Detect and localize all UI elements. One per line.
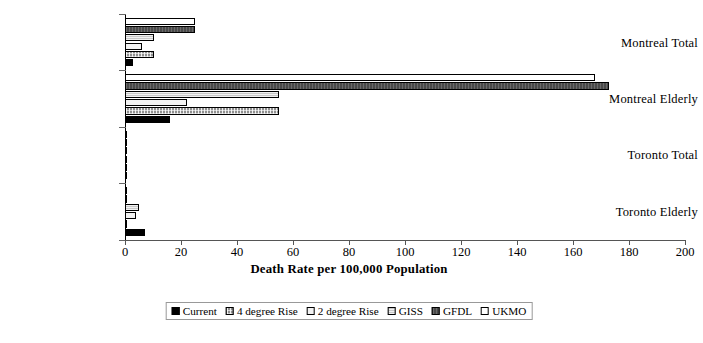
bar-current-montreal-elderly: [125, 116, 170, 123]
bar-group-montreal-total: [125, 14, 685, 70]
bar-row: [125, 220, 685, 228]
legend-label: GISS: [399, 305, 423, 317]
bar-group-montreal-elderly: [125, 70, 685, 127]
bar-group-toronto-elderly: [125, 183, 685, 240]
bar-row: [125, 17, 685, 25]
legend-item-giss[interactable]: GISS: [388, 305, 423, 317]
x-tick-label: 180: [609, 245, 649, 260]
legend-label: GFDL: [443, 305, 472, 317]
legend-item-gfdl[interactable]: GFDL: [432, 305, 472, 317]
bar-4-degree-rise-toronto-elderly: [125, 220, 127, 227]
bar-ukmo-montreal-total: [125, 18, 195, 25]
x-tick-label: 80: [329, 245, 369, 260]
chart-legend: Current4 degree Rise2 degree RiseGISSGFD…: [166, 302, 533, 320]
bar-row: [125, 99, 685, 107]
bar-row: [125, 50, 685, 58]
bar-row: [125, 107, 685, 115]
bar-2-degree-rise-toronto-total: [125, 156, 127, 163]
x-tick-label: 140: [497, 245, 537, 260]
bar-row: [125, 155, 685, 163]
bar-row: [125, 195, 685, 203]
bar-ukmo-montreal-elderly: [125, 74, 595, 81]
bar-row: [125, 115, 685, 123]
bar-row: [125, 187, 685, 195]
bar-row: [125, 90, 685, 98]
legend-item-2-degree-rise[interactable]: 2 degree Rise: [307, 305, 379, 317]
bar-current-montreal-total: [125, 59, 133, 66]
legend-swatch-icon: [481, 307, 489, 315]
legend-item-current[interactable]: Current: [172, 305, 217, 317]
x-axis-title: Death Rate per 100,000 Population: [0, 262, 698, 277]
x-tick-label: 200: [665, 245, 703, 260]
x-tick-label: 120: [441, 245, 481, 260]
bar-row: [125, 163, 685, 171]
bar-gfdl-montreal-elderly: [125, 82, 609, 89]
bar-gfdl-montreal-total: [125, 26, 195, 33]
x-tick-label: 100: [385, 245, 425, 260]
bar-row: [125, 42, 685, 50]
bar-group-toronto-total: [125, 127, 685, 183]
bar-giss-montreal-elderly: [125, 91, 279, 98]
bar-row: [125, 147, 685, 155]
bar-2-degree-rise-toronto-elderly: [125, 212, 136, 219]
bar-row: [125, 138, 685, 146]
x-tick-label: 40: [217, 245, 257, 260]
x-tick-label: 20: [161, 245, 201, 260]
bar-4-degree-rise-montreal-elderly: [125, 107, 279, 114]
bar-giss-toronto-total: [125, 147, 127, 154]
bar-current-toronto-total: [125, 172, 127, 179]
legend-label: 2 degree Rise: [318, 305, 379, 317]
bar-row: [125, 82, 685, 90]
bar-row: [125, 228, 685, 236]
bar-4-degree-rise-toronto-total: [125, 164, 127, 171]
legend-swatch-icon: [388, 307, 396, 315]
plot-area: [125, 14, 685, 240]
bar-ukmo-toronto-elderly: [125, 187, 127, 194]
bar-row: [125, 130, 685, 138]
bar-ukmo-toronto-total: [125, 131, 127, 138]
bar-row: [125, 34, 685, 42]
bar-row: [125, 59, 685, 67]
x-tick-label: 60: [273, 245, 313, 260]
legend-swatch-icon: [226, 307, 234, 315]
bar-row: [125, 212, 685, 220]
bar-giss-toronto-elderly: [125, 204, 139, 211]
bar-gfdl-toronto-total: [125, 139, 127, 146]
bar-2-degree-rise-montreal-elderly: [125, 99, 187, 106]
legend-item-4-degree-rise[interactable]: 4 degree Rise: [226, 305, 298, 317]
bar-row: [125, 25, 685, 33]
bar-current-toronto-elderly: [125, 229, 145, 236]
x-tick-label: 160: [553, 245, 593, 260]
legend-swatch-icon: [307, 307, 315, 315]
bar-giss-montreal-total: [125, 34, 154, 41]
legend-swatch-icon: [432, 307, 440, 315]
bar-4-degree-rise-montreal-total: [125, 51, 154, 58]
bar-gfdl-toronto-elderly: [125, 195, 127, 202]
bar-2-degree-rise-montreal-total: [125, 43, 142, 50]
legend-swatch-icon: [172, 307, 180, 315]
bar-row: [125, 74, 685, 82]
legend-label: Current: [183, 305, 217, 317]
x-tick-label: 0: [105, 245, 145, 260]
bar-row: [125, 203, 685, 211]
legend-label: UKMO: [492, 305, 526, 317]
legend-item-ukmo[interactable]: UKMO: [481, 305, 526, 317]
bar-row: [125, 172, 685, 180]
legend-label: 4 degree Rise: [237, 305, 298, 317]
